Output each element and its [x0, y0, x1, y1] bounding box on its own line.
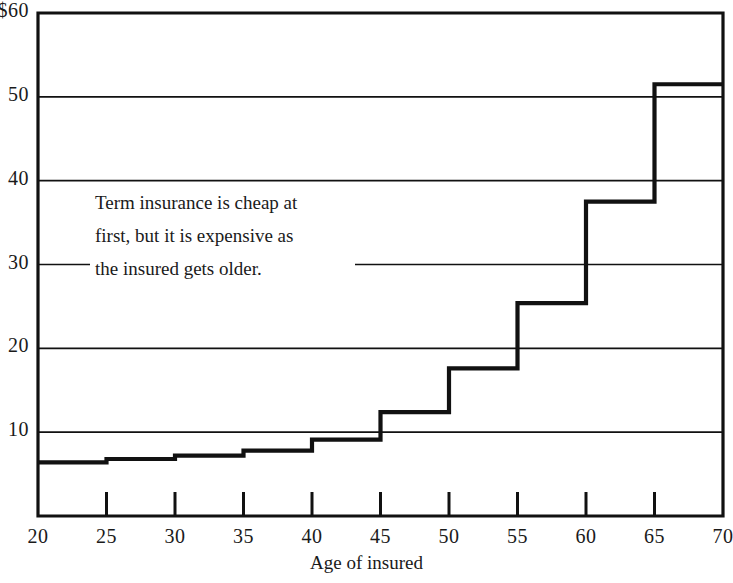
x-tick-label-45: 45	[356, 525, 406, 548]
x-tick-label-70: 70	[698, 525, 733, 548]
y-tick-label-60: $60	[0, 0, 29, 22]
x-tick-label-20: 20	[13, 525, 63, 548]
chart-annotation-text: Term insurance is cheap at first, but it…	[95, 186, 351, 285]
annotation-line-3: the insured gets older.	[95, 252, 351, 285]
annotation-line-1: Term insurance is cheap at	[95, 186, 351, 219]
x-tick-label-25: 25	[82, 525, 132, 548]
x-tick-label-30: 30	[150, 525, 200, 548]
y-tick-label-30: 30	[8, 251, 29, 274]
y-tick-label-40: 40	[8, 167, 29, 190]
chart-plot-area	[0, 0, 733, 583]
x-tick-label-55: 55	[493, 525, 543, 548]
chart-container: 1020304050$60 2025303540455055606570 Age…	[0, 0, 733, 583]
annotation-line-2: first, but it is expensive as	[95, 219, 351, 252]
y-tick-label-10: 10	[8, 418, 29, 441]
x-tick-label-35: 35	[219, 525, 269, 548]
x-tick-label-40: 40	[287, 525, 337, 548]
y-tick-label-20: 20	[8, 334, 29, 357]
x-tick-label-50: 50	[424, 525, 474, 548]
x-tick-marks-group	[107, 492, 655, 516]
y-tick-label-50: 50	[8, 83, 29, 106]
x-axis-title: Age of insured	[0, 552, 733, 574]
x-tick-label-60: 60	[561, 525, 611, 548]
x-tick-label-65: 65	[630, 525, 680, 548]
